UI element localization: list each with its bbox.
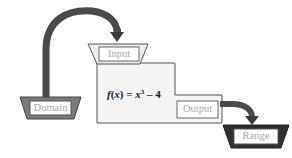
output-to-range-arrow xyxy=(220,104,252,117)
formula-rest: – 4 xyxy=(144,88,161,100)
arrowhead-down-icon xyxy=(245,116,259,125)
formula-equals: = xyxy=(124,88,136,100)
arrowhead-down-icon xyxy=(110,32,124,42)
domain-label: Domain xyxy=(30,103,71,114)
function-formula: f(x) = x3 – 4 xyxy=(107,89,161,100)
formula-variable: x xyxy=(114,88,120,100)
function-machine-diagram: Input Domain Output Range f(x) = x3 – 4 xyxy=(0,0,292,158)
output-label: Output xyxy=(177,104,218,115)
range-label: Range xyxy=(234,131,278,142)
formula-function-name: f xyxy=(107,88,111,100)
input-label: Input xyxy=(99,49,139,60)
